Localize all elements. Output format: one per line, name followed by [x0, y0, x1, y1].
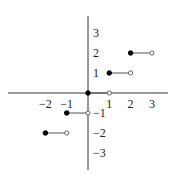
closed-dot-icon [128, 51, 133, 56]
open-dot-icon [86, 111, 90, 115]
open-dot-icon [150, 51, 154, 55]
y-tick-label: 1 [93, 66, 99, 80]
x-tick-label: 2 [128, 97, 134, 111]
step-function-chart: −2−1123 321−1−2−3 [0, 0, 178, 178]
y-tick-label: −1 [93, 106, 106, 120]
y-tick-label: −2 [93, 126, 106, 140]
step-segment [64, 111, 90, 116]
y-tick-label: −3 [93, 146, 106, 160]
y-tick-label: 2 [93, 46, 99, 60]
y-tick-label: 3 [93, 26, 99, 40]
step-segment [128, 51, 154, 56]
closed-dot-icon [43, 131, 48, 136]
x-tick-label: −1 [60, 97, 73, 111]
step-segment [43, 131, 69, 136]
closed-dot-icon [86, 91, 91, 96]
open-dot-icon [65, 131, 69, 135]
x-tick-label: −2 [39, 97, 52, 111]
x-tick-label: 3 [149, 97, 155, 111]
closed-dot-icon [64, 111, 69, 116]
open-dot-icon [129, 71, 133, 75]
step-segment [107, 71, 133, 76]
x-tick-label: 1 [106, 97, 112, 111]
step-segment [86, 91, 112, 96]
open-dot-icon [107, 91, 111, 95]
closed-dot-icon [107, 71, 112, 76]
